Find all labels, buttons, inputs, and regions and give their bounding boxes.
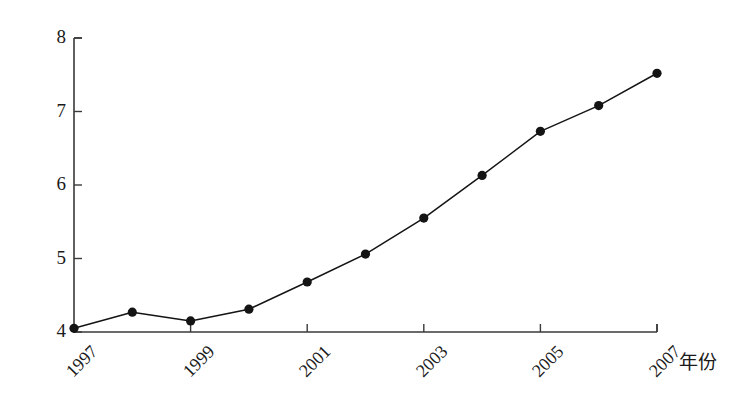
series-markers (69, 69, 661, 333)
y-axis-ticks (74, 38, 82, 332)
data-point (361, 249, 370, 258)
series-group (69, 69, 661, 333)
data-point (536, 127, 545, 136)
x-axis-ticks (74, 324, 657, 332)
data-point (128, 308, 137, 317)
data-point (244, 305, 253, 314)
line-chart: 45678 199719992001200320052007 年份 (0, 0, 749, 413)
axes-group (74, 38, 657, 332)
y-tick-label: 4 (40, 321, 66, 340)
y-tick-label: 8 (40, 27, 66, 46)
y-tick-label: 6 (40, 174, 66, 193)
data-point (652, 69, 661, 78)
data-point (419, 213, 428, 222)
x-axis-title: 年份 (679, 353, 717, 372)
series-line (74, 73, 657, 328)
data-point (186, 316, 195, 325)
chart-plot-area (0, 0, 749, 413)
axis-lines (74, 38, 657, 332)
y-tick-label: 5 (40, 248, 66, 267)
data-point (303, 277, 312, 286)
data-point (594, 101, 603, 110)
data-point (478, 171, 487, 180)
data-point (69, 324, 78, 333)
y-tick-label: 7 (40, 101, 66, 120)
